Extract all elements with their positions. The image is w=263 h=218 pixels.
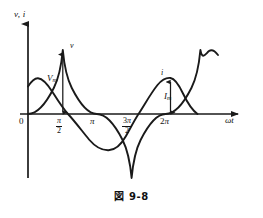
tick-label-pi-over-2: π 2 xyxy=(56,117,62,135)
waveform-plot xyxy=(0,0,263,218)
tick-label-pi: π xyxy=(90,117,95,126)
voltage-curve-label: v xyxy=(70,42,74,50)
tick-denominator: 2 xyxy=(56,127,62,135)
tick-label-2pi: 2π xyxy=(160,117,169,126)
tick-numerator: π xyxy=(56,117,62,125)
tick-numerator: 3π xyxy=(122,117,132,125)
im-amplitude-label: Im xyxy=(164,92,171,101)
vm-amplitude-label: Vm xyxy=(47,74,57,83)
y-axis-label: v, i xyxy=(14,10,26,19)
tick-denominator: 2 xyxy=(122,127,132,135)
tick-label-origin: 0 xyxy=(19,117,24,126)
x-axis-label: ωt xyxy=(225,116,234,125)
current-curve-label: i xyxy=(161,69,163,77)
figure-caption: 図 9-8 xyxy=(0,188,263,203)
figure-9-8: v, i ωt 0 π 2 π 3π 2 2π v i Vm Im 図 9-8 xyxy=(0,0,263,218)
tick-label-3pi-over-2: 3π 2 xyxy=(122,117,132,135)
